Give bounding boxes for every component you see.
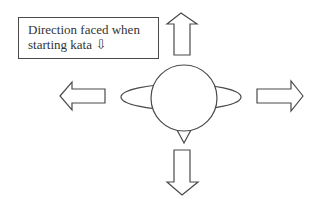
arrow-up-icon <box>167 13 197 55</box>
label-line-1: Direction faced when <box>28 22 158 37</box>
arrow-down-icon <box>167 150 198 195</box>
label-line-2: starting kata ⇩ <box>28 37 158 52</box>
direction-label-box: Direction faced when starting kata ⇩ <box>18 17 159 59</box>
arrow-right-icon <box>257 81 303 111</box>
head-circle <box>151 65 217 131</box>
arrow-left-icon <box>60 82 105 110</box>
